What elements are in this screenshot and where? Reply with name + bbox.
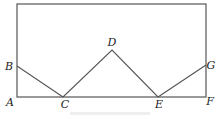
label-e: E xyxy=(154,98,163,111)
zigzag-path-b-c-d-e-g xyxy=(17,50,206,97)
label-f: F xyxy=(205,95,214,108)
label-a: A xyxy=(5,96,14,109)
label-d: D xyxy=(107,36,117,49)
label-g: G xyxy=(207,59,216,72)
label-b: B xyxy=(4,60,13,73)
geometry-diagram: A B C D E F G xyxy=(0,0,217,119)
faint-caption xyxy=(70,112,150,115)
label-c: C xyxy=(61,98,70,111)
